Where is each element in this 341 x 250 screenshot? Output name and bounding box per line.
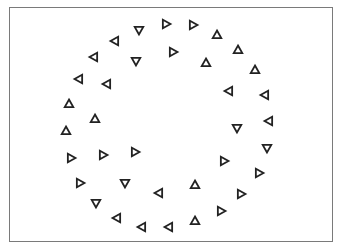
- triangle-left-icon: [261, 91, 269, 100]
- triangle-up-icon: [202, 59, 211, 67]
- triangle-up-icon: [191, 181, 200, 189]
- triangle-right-icon: [68, 154, 76, 163]
- triangle-left-icon: [111, 37, 119, 46]
- triangle-up-icon: [251, 66, 260, 74]
- triangle-left-icon: [165, 223, 173, 232]
- triangle-left-icon: [265, 117, 273, 126]
- triangle-left-icon: [103, 80, 111, 89]
- triangle-down-icon: [233, 125, 242, 133]
- triangle-left-icon: [138, 223, 146, 232]
- triangle-right-icon: [132, 148, 140, 157]
- triangle-up-icon: [91, 115, 100, 123]
- triangle-right-icon: [163, 20, 171, 29]
- triangle-down-icon: [121, 180, 130, 188]
- triangle-up-icon: [65, 100, 74, 108]
- triangle-right-icon: [170, 48, 178, 57]
- triangle-right-icon: [238, 190, 246, 199]
- triangle-left-icon: [225, 87, 233, 96]
- triangle-up-icon: [62, 127, 71, 135]
- triangle-up-icon: [234, 46, 243, 54]
- triangle-left-icon: [155, 189, 163, 198]
- triangle-left-icon: [113, 214, 121, 223]
- triangle-down-icon: [92, 200, 101, 208]
- triangle-down-icon: [263, 145, 272, 153]
- triangle-up-icon: [191, 217, 200, 225]
- triangle-down-icon: [135, 27, 144, 35]
- triangle-right-icon: [190, 21, 198, 30]
- triangle-field: [0, 0, 341, 250]
- triangle-left-icon: [75, 75, 83, 84]
- triangle-right-icon: [218, 207, 226, 216]
- triangle-left-icon: [90, 53, 98, 62]
- triangle-right-icon: [100, 151, 108, 160]
- triangle-right-icon: [256, 169, 264, 178]
- triangle-up-icon: [213, 31, 222, 39]
- triangle-right-icon: [77, 179, 85, 188]
- triangle-right-icon: [221, 157, 229, 166]
- triangle-down-icon: [132, 58, 141, 66]
